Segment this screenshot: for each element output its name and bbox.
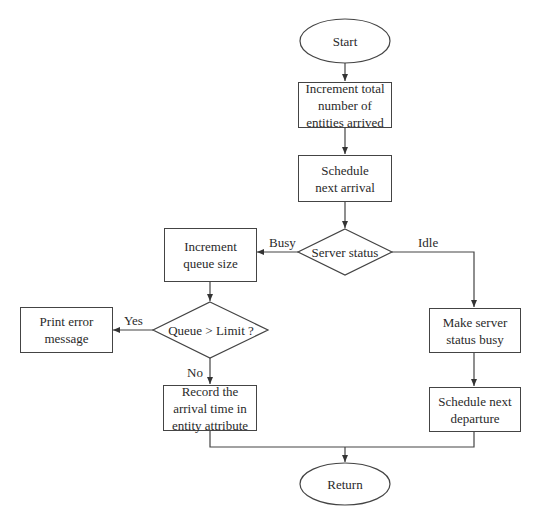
record-time-label: Record the arrival time in entity attrib… [164, 383, 256, 434]
return-label: Return [327, 476, 362, 493]
schedule-departure-box: Schedule next departure [429, 387, 521, 432]
record-time-box: Record the arrival time in entity attrib… [163, 385, 257, 431]
schedule-departure-label: Schedule next departure [436, 393, 514, 427]
edge-label-busy: Busy [269, 235, 296, 250]
server-status-decision: Server status [300, 242, 390, 262]
increment-queue-label: Increment queue size [179, 238, 242, 272]
print-error-box: Print error message [20, 307, 113, 353]
increment-total-box: Increment total number of entities arriv… [298, 82, 392, 128]
edge-label-no: No [187, 365, 203, 380]
return-terminal: Return [300, 463, 390, 505]
print-error-label: Print error message [35, 313, 98, 347]
start-label: Start [333, 33, 358, 50]
server-status-label: Server status [312, 244, 379, 261]
flowchart-connectors [0, 0, 539, 516]
queue-limit-decision: Queue > Limit ? [158, 320, 264, 340]
make-busy-box: Make server status busy [429, 308, 521, 353]
increment-total-label: Increment total number of entities arriv… [299, 80, 391, 131]
edge-label-yes: Yes [124, 313, 143, 328]
queue-limit-label: Queue > Limit ? [168, 322, 254, 339]
start-terminal: Start [300, 19, 390, 63]
schedule-arrival-label: Schedule next arrival [313, 162, 377, 196]
edge-label-idle: Idle [418, 235, 438, 250]
increment-queue-box: Increment queue size [164, 228, 257, 282]
schedule-arrival-box: Schedule next arrival [298, 155, 392, 202]
make-busy-label: Make server status busy [442, 314, 508, 348]
